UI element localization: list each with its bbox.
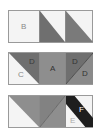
label-f: F (79, 106, 84, 114)
label-b: B (21, 23, 26, 31)
block-c-d: C D (9, 53, 39, 84)
label-a: A (50, 65, 55, 73)
block-a: A (39, 53, 65, 84)
block-e-f: F E (65, 96, 93, 127)
triangle-shape (66, 11, 93, 42)
quilt-row-2: C D A D D (8, 52, 93, 85)
label-e: E (70, 117, 75, 125)
quilt-row-3: F E (8, 95, 93, 128)
label-d: D (29, 58, 35, 66)
quilt-row-1: B (8, 10, 93, 43)
triangle-shape (9, 96, 39, 127)
label-d-upper: D (72, 58, 78, 66)
flying-geese-left (9, 96, 39, 127)
triangle-shape (40, 11, 65, 42)
flying-geese-right (39, 96, 65, 127)
block-b: B (9, 11, 39, 42)
half-square-triangle-1 (39, 11, 65, 42)
half-square-triangle-2 (65, 11, 93, 42)
triangle-shape (66, 53, 93, 84)
triangle-shape (40, 96, 65, 127)
label-d-lower: D (82, 70, 88, 78)
label-c: C (18, 71, 24, 79)
block-d-d: D D (65, 53, 93, 84)
